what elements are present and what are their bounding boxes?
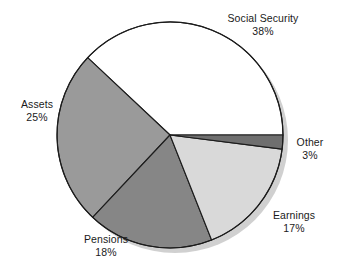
slice-label-social-security-name: Social Security [200, 12, 326, 25]
slice-label-earnings-name: Earnings [256, 209, 332, 222]
slice-label-pensions-name: Pensions [66, 233, 146, 246]
slice-label-other: Other 3% [286, 136, 334, 162]
slice-label-other-name: Other [286, 136, 334, 149]
slice-label-pensions: Pensions 18% [66, 233, 146, 259]
pie-slices [57, 22, 283, 248]
slice-label-other-value: 3% [286, 149, 334, 162]
slice-label-social-security-value: 38% [200, 25, 326, 38]
slice-label-earnings: Earnings 17% [256, 209, 332, 235]
slice-label-pensions-value: 18% [66, 246, 146, 259]
slice-label-assets: Assets 25% [2, 98, 72, 124]
slice-label-earnings-value: 17% [256, 222, 332, 235]
slice-label-assets-name: Assets [2, 98, 72, 111]
slice-label-social-security: Social Security 38% [200, 12, 326, 38]
pie-chart: Social Security 38% Assets 25% Pensions … [0, 0, 337, 277]
slice-label-assets-value: 25% [2, 111, 72, 124]
